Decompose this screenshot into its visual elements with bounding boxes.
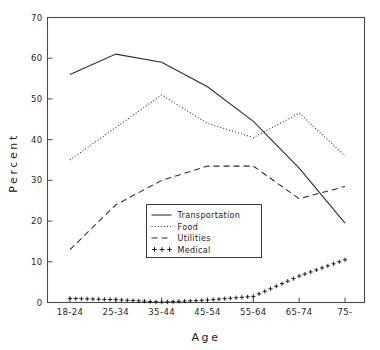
line-chart: 010203040506070 18-2425-3435-4445-5455-6… bbox=[0, 0, 380, 350]
legend-label-food: Food bbox=[178, 223, 199, 232]
marker-plus bbox=[91, 297, 95, 301]
x-tick-label-55-64: 55-64 bbox=[240, 307, 267, 317]
marker-plus bbox=[211, 297, 215, 301]
marker-plus bbox=[160, 300, 164, 304]
x-tick-label-65-74: 65-74 bbox=[286, 307, 313, 317]
marker-plus bbox=[320, 266, 324, 270]
marker-plus bbox=[280, 282, 284, 286]
y-tick-label-70: 70 bbox=[31, 13, 43, 23]
marker-plus bbox=[246, 295, 250, 299]
legend-label-medical: Medical bbox=[178, 246, 211, 255]
y-tick-label-40: 40 bbox=[31, 135, 43, 145]
marker-plus bbox=[251, 294, 255, 298]
x-axis-title: Age bbox=[191, 331, 220, 344]
marker-plus bbox=[303, 272, 307, 276]
marker-plus bbox=[309, 270, 313, 274]
y-tick-label-50: 50 bbox=[31, 94, 43, 104]
marker-plus bbox=[228, 296, 232, 300]
y-tick-label-60: 60 bbox=[31, 53, 43, 63]
marker-plus bbox=[119, 298, 123, 302]
marker-plus bbox=[297, 274, 301, 278]
marker-plus bbox=[79, 297, 83, 301]
marker-plus bbox=[171, 299, 175, 303]
marker-plus bbox=[286, 279, 290, 283]
marker-plus bbox=[125, 298, 129, 302]
x-tick-label-18-24: 18-24 bbox=[57, 307, 84, 317]
marker-plus bbox=[102, 297, 106, 301]
marker-plus bbox=[268, 287, 272, 291]
marker-plus bbox=[331, 262, 335, 266]
marker-plus bbox=[165, 300, 169, 304]
marker-plus bbox=[274, 284, 278, 288]
marker-plus bbox=[337, 260, 341, 264]
y-tick-label-0: 0 bbox=[37, 298, 43, 308]
marker-plus bbox=[114, 298, 118, 302]
series-path-food bbox=[70, 95, 345, 160]
y-tick-label-30: 30 bbox=[31, 175, 43, 185]
plot-frame bbox=[48, 18, 365, 303]
marker-plus bbox=[263, 289, 267, 293]
x-tick-label-25-34: 25-34 bbox=[102, 307, 129, 317]
marker-plus bbox=[326, 264, 330, 268]
marker-plus bbox=[200, 298, 204, 302]
marker-plus bbox=[205, 298, 209, 302]
marker-plus bbox=[217, 297, 221, 301]
marker-plus bbox=[154, 300, 158, 304]
marker-plus bbox=[68, 296, 72, 300]
x-tick-label-45-54: 45-54 bbox=[194, 307, 221, 317]
marker-plus bbox=[223, 297, 227, 301]
marker-plus bbox=[257, 292, 261, 296]
x-tick-label-75-: 75- bbox=[337, 307, 352, 317]
marker-plus bbox=[97, 297, 101, 301]
marker-plus bbox=[108, 297, 112, 301]
marker-plus bbox=[74, 296, 78, 300]
series-medical bbox=[68, 258, 347, 305]
marker-plus bbox=[85, 297, 89, 301]
y-axis-title: Percent bbox=[7, 133, 20, 193]
y-tick-label-20: 20 bbox=[31, 216, 43, 226]
y-tick-label-10: 10 bbox=[31, 257, 43, 267]
chart-legend: TransportationFoodUtilitiesMedical bbox=[147, 205, 262, 258]
marker-plus bbox=[291, 276, 295, 280]
legend-label-transportation: Transportation bbox=[177, 211, 241, 220]
y-axis-tick-labels: 010203040506070 bbox=[31, 13, 43, 308]
series-food bbox=[70, 95, 345, 160]
marker-plus bbox=[314, 268, 318, 272]
x-tick-label-35-44: 35-44 bbox=[148, 307, 175, 317]
marker-plus bbox=[234, 296, 238, 300]
legend-label-utilities: Utilities bbox=[178, 234, 211, 243]
chart-container: 010203040506070 18-2425-3435-4445-5455-6… bbox=[0, 0, 380, 350]
x-axis-tick-labels: 18-2425-3435-4445-5455-6465-7475- bbox=[57, 307, 353, 317]
y-axis-ticks bbox=[48, 18, 53, 303]
series-group bbox=[68, 54, 347, 304]
marker-plus bbox=[343, 258, 347, 262]
marker-plus bbox=[240, 295, 244, 299]
